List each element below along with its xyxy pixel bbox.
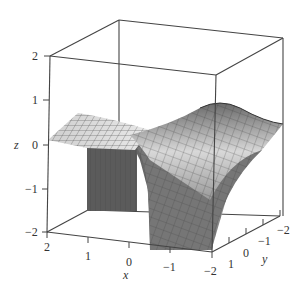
z-axis-label: z — [14, 139, 19, 151]
x-tick-label: −2 — [204, 265, 217, 277]
y-tick-label: 0 — [243, 247, 249, 259]
x-tick-label: 2 — [44, 241, 50, 253]
z-tick-label: 2 — [32, 50, 38, 62]
surface-left-flat — [48, 113, 150, 150]
z-tick-label: 1 — [32, 94, 38, 106]
x-axis-label: x — [123, 269, 128, 281]
y-tick-label: 1 — [228, 258, 234, 270]
z-tick-label: 0 — [32, 139, 38, 151]
z-tick-label: −1 — [25, 183, 38, 195]
y-tick-label: −1 — [258, 235, 271, 247]
y-axis-label: y — [262, 253, 267, 265]
y-tick-label: −2 — [277, 224, 290, 236]
z-tick-label: −2 — [25, 226, 38, 238]
x-tick-label: −1 — [163, 261, 176, 273]
x-tick-label: 0 — [126, 256, 132, 268]
x-tick-label: 1 — [85, 250, 91, 262]
